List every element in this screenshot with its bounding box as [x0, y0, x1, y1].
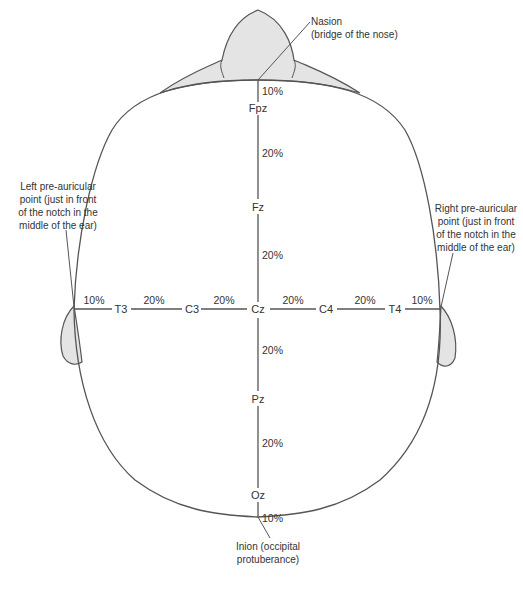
left-ear-shape [61, 306, 82, 364]
electrode-pz: Pz [252, 393, 265, 405]
svg-text:point (just in front: point (just in front [20, 194, 97, 205]
electrode-t4: T4 [389, 303, 402, 315]
electrode-t3: T3 [115, 303, 128, 315]
svg-text:Left pre-auricular: Left pre-auricular [20, 181, 96, 192]
midline-segment-5: 20% [262, 437, 283, 449]
svg-text:middle of the ear): middle of the ear) [437, 242, 515, 253]
eeg-10-20-diagram: Fpz Fz Pz Oz 10% 20% 20% 20% 20% 10% T3 … [0, 0, 523, 589]
electrode-fz: Fz [252, 201, 264, 213]
svg-text:(bridge of the nose): (bridge of the nose) [311, 29, 398, 40]
coronal-segment-2: 20% [143, 294, 164, 306]
nasion-label: Nasion (bridge of the nose) [311, 16, 398, 40]
svg-text:middle of the ear): middle of the ear) [19, 220, 97, 231]
coronal-segment-1: 10% [83, 294, 104, 306]
pointer-lines [66, 22, 453, 538]
midline-segment-6: 10% [262, 512, 283, 524]
svg-text:of the notch in the: of the notch in the [436, 229, 516, 240]
midline-segment-2: 20% [262, 147, 283, 159]
coronal-segment-4: 20% [282, 294, 303, 306]
electrode-c4: C4 [319, 303, 333, 315]
svg-text:Nasion: Nasion [311, 16, 342, 27]
inion-label: Inion (occipital protuberance) [236, 541, 300, 565]
midline-segment-1: 10% [262, 85, 283, 97]
svg-text:of the notch in the: of the notch in the [18, 207, 98, 218]
electrode-cz: Cz [251, 303, 264, 315]
head-outline [74, 80, 440, 517]
electrode-oz: Oz [251, 489, 265, 501]
electrode-c3: C3 [185, 303, 199, 315]
electrode-fpz: Fpz [249, 102, 267, 114]
svg-text:Inion (occipital: Inion (occipital [236, 541, 300, 552]
coronal-segment-6: 10% [411, 294, 432, 306]
midline-segment-4: 20% [262, 344, 283, 356]
svg-text:Right pre-auricular: Right pre-auricular [435, 203, 518, 214]
svg-text:protuberance): protuberance) [237, 554, 299, 565]
midline-segment-3: 20% [262, 249, 283, 261]
coronal-segment-5: 20% [354, 294, 375, 306]
right-preauricular-label: Right pre-auricular point (just in front… [435, 203, 518, 253]
coronal-segment-3: 20% [213, 294, 234, 306]
svg-text:point (just in front: point (just in front [438, 216, 515, 227]
